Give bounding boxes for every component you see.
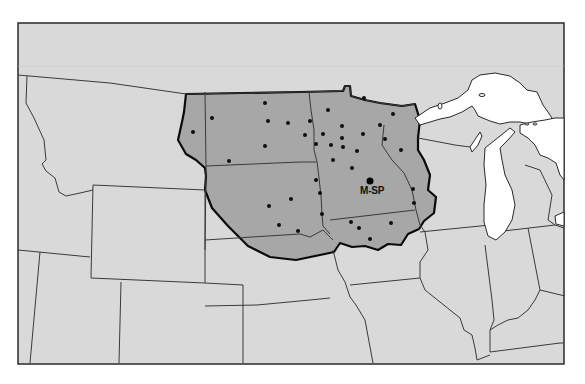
- site-point: [341, 145, 345, 149]
- site-point: [326, 108, 330, 112]
- site-point: [389, 221, 393, 225]
- site-point: [191, 130, 195, 134]
- site-point: [331, 158, 335, 162]
- site-point: [357, 226, 361, 230]
- site-point: [277, 223, 281, 227]
- site-point: [412, 201, 416, 205]
- site-point: [340, 124, 344, 128]
- site-point: [289, 197, 293, 201]
- site-point: [391, 112, 395, 116]
- site-point: [411, 187, 415, 191]
- site-point: [378, 123, 382, 127]
- site-point: [349, 220, 353, 224]
- hub-label: M-SP: [360, 185, 385, 196]
- site-point: [296, 229, 300, 233]
- site-point: [362, 96, 366, 100]
- site-point: [267, 204, 271, 208]
- site-point: [350, 166, 354, 170]
- site-point: [383, 137, 387, 141]
- site-point: [320, 212, 324, 216]
- site-point: [399, 148, 403, 152]
- site-point: [263, 144, 267, 148]
- site-point: [318, 191, 322, 195]
- site-point: [361, 132, 365, 136]
- hub-marker: [367, 178, 374, 185]
- site-point: [227, 159, 231, 163]
- site-point: [263, 101, 267, 105]
- site-point: [321, 132, 325, 136]
- site-point: [314, 142, 318, 146]
- site-point: [303, 133, 307, 137]
- site-point: [308, 119, 312, 123]
- site-point: [210, 116, 214, 120]
- site-point: [314, 178, 318, 182]
- regional-map: M-SP: [0, 0, 585, 384]
- site-point: [368, 237, 372, 241]
- site-point: [286, 121, 290, 125]
- site-point: [355, 149, 359, 153]
- site-point: [329, 143, 333, 147]
- site-point: [266, 119, 270, 123]
- site-point: [340, 136, 344, 140]
